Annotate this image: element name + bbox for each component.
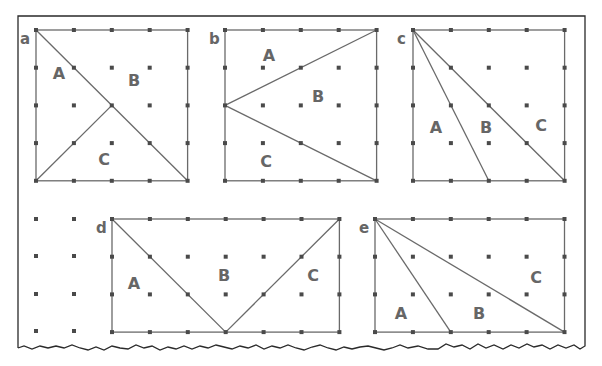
grid-peg — [110, 217, 114, 221]
grid-peg — [337, 330, 341, 334]
grid-peg — [337, 103, 341, 107]
grid-peg — [337, 179, 341, 183]
grid-peg — [110, 292, 114, 296]
grid-peg — [563, 330, 567, 334]
region-label: C — [530, 268, 542, 287]
grid-peg — [487, 255, 491, 259]
region-label: C — [260, 152, 272, 171]
grid-peg — [110, 28, 114, 32]
figures-layer: aABCbABCcABCdABCeABC — [20, 28, 567, 334]
grid-peg — [525, 66, 529, 70]
grid-peg — [525, 28, 529, 32]
grid-peg — [262, 330, 266, 334]
grid-peg — [300, 292, 304, 296]
grid-peg — [148, 66, 152, 70]
grid-peg — [299, 28, 303, 32]
grid-peg — [110, 141, 114, 145]
loose-grid-peg — [34, 329, 38, 333]
grid-peg — [110, 103, 114, 107]
grid-peg — [223, 141, 227, 145]
figure-label: c — [397, 30, 406, 48]
grid-peg — [411, 103, 415, 107]
loose-grid-peg — [34, 292, 38, 296]
grid-peg — [186, 217, 190, 221]
grid-peg — [148, 255, 152, 259]
grid-peg — [487, 66, 491, 70]
region-label: B — [473, 304, 485, 323]
loose-grid-peg — [72, 329, 76, 333]
grid-peg — [261, 103, 265, 107]
grid-peg — [411, 66, 415, 70]
grid-peg — [449, 66, 453, 70]
grid-peg — [72, 141, 76, 145]
region-label: C — [535, 116, 547, 135]
region-label: A — [263, 46, 276, 65]
grid-peg — [223, 28, 227, 32]
grid-peg — [262, 217, 266, 221]
grid-peg — [525, 255, 529, 259]
grid-peg — [449, 103, 453, 107]
grid-peg — [186, 66, 190, 70]
grid-peg — [262, 255, 266, 259]
grid-peg — [375, 103, 379, 107]
grid-peg — [449, 28, 453, 32]
grid-peg — [563, 217, 567, 221]
grid-peg — [487, 28, 491, 32]
grid-peg — [148, 217, 152, 221]
grid-peg — [299, 179, 303, 183]
grid-peg — [261, 179, 265, 183]
grid-peg — [525, 217, 529, 221]
grid-peg — [411, 217, 415, 221]
figure-label: b — [209, 30, 220, 48]
grid-peg — [487, 217, 491, 221]
grid-peg — [299, 103, 303, 107]
grid-peg — [148, 330, 152, 334]
grid-peg — [373, 255, 377, 259]
grid-peg — [261, 141, 265, 145]
grid-peg — [34, 141, 38, 145]
grid-peg — [110, 255, 114, 259]
grid-peg — [186, 255, 190, 259]
grid-peg — [449, 330, 453, 334]
grid-peg — [337, 292, 341, 296]
loose-grid-peg — [72, 254, 76, 258]
grid-peg — [411, 330, 415, 334]
region-label: C — [98, 150, 110, 169]
grid-peg — [337, 217, 341, 221]
grid-peg — [525, 141, 529, 145]
grid-peg — [487, 330, 491, 334]
grid-peg — [563, 292, 567, 296]
grid-peg — [563, 66, 567, 70]
grid-peg — [300, 217, 304, 221]
region-label: B — [480, 118, 492, 137]
grid-peg — [261, 66, 265, 70]
grid-peg — [411, 28, 415, 32]
grid-peg — [110, 66, 114, 70]
grid-peg — [186, 330, 190, 334]
grid-peg — [299, 141, 303, 145]
figure-label: d — [96, 219, 107, 237]
loose-grid-peg — [34, 254, 38, 258]
grid-peg — [148, 103, 152, 107]
grid-peg — [186, 28, 190, 32]
grid-peg — [449, 179, 453, 183]
grid-peg — [34, 103, 38, 107]
loose-grid-peg — [72, 292, 76, 296]
grid-peg — [487, 179, 491, 183]
grid-peg — [299, 66, 303, 70]
grid-peg — [487, 141, 491, 145]
grid-peg — [525, 292, 529, 296]
grid-peg — [487, 292, 491, 296]
grid-peg — [337, 141, 341, 145]
grid-peg — [525, 179, 529, 183]
grid-peg — [110, 330, 114, 334]
grid-peg — [223, 103, 227, 107]
grid-peg — [261, 28, 265, 32]
grid-peg — [186, 179, 190, 183]
region-label: C — [307, 266, 319, 285]
grid-peg — [449, 292, 453, 296]
grid-peg — [34, 28, 38, 32]
grid-peg — [373, 330, 377, 334]
grid-peg — [563, 103, 567, 107]
grid-peg — [72, 66, 76, 70]
